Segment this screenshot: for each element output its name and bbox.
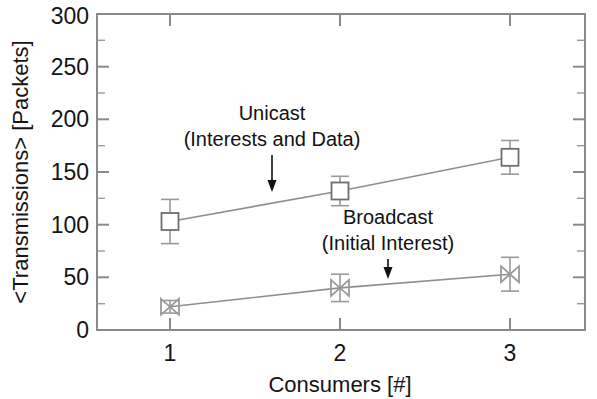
annotation-unicast: Unicast (Interests and Data): [184, 102, 361, 192]
y-tick-label-150: 150: [51, 159, 89, 185]
x-axis-major-ticks: [170, 318, 510, 330]
y-tick-label-0: 0: [76, 317, 89, 343]
y-tick-label-50: 50: [63, 264, 89, 290]
x-axis-title: Consumers [#]: [268, 372, 411, 397]
series-broadcast: [161, 257, 519, 315]
x-axis-top-ticks: [170, 14, 510, 26]
y-tick-label-100: 100: [51, 212, 89, 238]
annotation-unicast-line1: Unicast: [239, 102, 306, 124]
series-unicast: [161, 141, 519, 244]
chart-figure: 0 50 100 150 200 250 300 1 2 3 Consumers…: [0, 0, 597, 399]
plot-frame: [97, 14, 585, 330]
annotation-broadcast-arrow-head: [384, 267, 393, 279]
y-tick-label-300: 300: [51, 3, 89, 29]
x-tick-label-1: 1: [164, 340, 177, 366]
annotation-broadcast-line1: Broadcast: [343, 206, 433, 228]
y-axis-title: <Transmissions> [Packets]: [8, 40, 33, 303]
x-tick-label-3: 3: [504, 340, 517, 366]
error-bar-line-chart: 0 50 100 150 200 250 300 1 2 3 Consumers…: [0, 0, 597, 399]
annotation-broadcast: Broadcast (Initial Interest): [322, 206, 454, 279]
annotation-unicast-line2: (Interests and Data): [184, 128, 361, 150]
y-axis-major-ticks: [97, 14, 109, 330]
unicast-marker-x1: [162, 213, 179, 230]
unicast-marker-x2: [332, 183, 349, 200]
y-axis-right-ticks: [573, 14, 585, 330]
x-tick-label-2: 2: [334, 340, 347, 366]
annotation-broadcast-line2: (Initial Interest): [322, 232, 454, 254]
y-tick-label-250: 250: [51, 54, 89, 80]
annotation-unicast-arrow-head: [268, 180, 277, 192]
y-tick-label-200: 200: [51, 106, 89, 132]
unicast-marker-x3: [502, 149, 519, 166]
